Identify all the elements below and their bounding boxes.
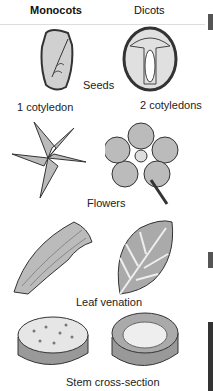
leaf-venation-label: Leaf venation bbox=[76, 296, 142, 308]
dicot-flower-illustration bbox=[105, 122, 181, 206]
adjacent-page-edge bbox=[208, 14, 213, 30]
monocot-cotyledon-caption: 1 cotyledon bbox=[17, 101, 73, 113]
flowers-label: Flowers bbox=[87, 197, 126, 209]
dicots-header: Dicots bbox=[134, 4, 165, 16]
dicot-stem-illustration bbox=[108, 311, 182, 375]
monocots-header: Monocots bbox=[30, 4, 82, 16]
stem-cross-section-label: Stem cross-section bbox=[66, 376, 160, 388]
adjacent-page-edge bbox=[208, 322, 213, 391]
dicot-leaf-illustration bbox=[110, 218, 176, 300]
dicot-seed-illustration bbox=[120, 26, 180, 92]
dicot-cotyledon-caption: 2 cotyledons bbox=[140, 99, 202, 111]
monocot-leaf-illustration bbox=[8, 216, 94, 298]
monocot-seed-illustration bbox=[38, 27, 78, 95]
seeds-label: Seeds bbox=[83, 79, 114, 91]
monocot-stem-illustration bbox=[14, 313, 92, 373]
monocot-flower-illustration bbox=[4, 118, 92, 202]
header-divider bbox=[0, 24, 205, 25]
adjacent-page-edge bbox=[208, 252, 213, 268]
